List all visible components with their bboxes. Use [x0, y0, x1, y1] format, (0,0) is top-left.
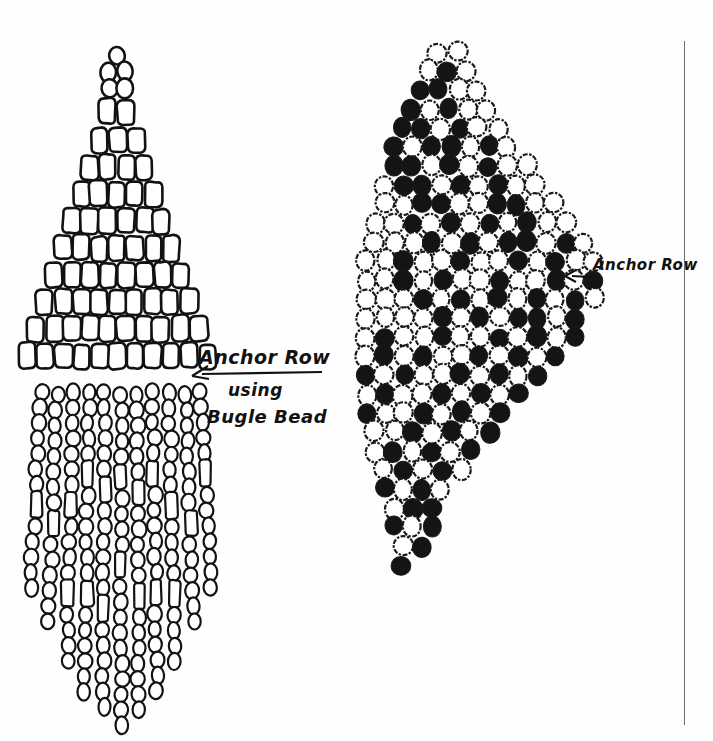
light-bead: [394, 326, 414, 346]
dark-bead: [546, 346, 564, 366]
light-bead: [470, 366, 490, 386]
arrow-shaft: [572, 276, 590, 277]
dark-bead: [509, 307, 529, 328]
dark-bead: [487, 192, 508, 215]
light-bead: [585, 287, 605, 308]
light-bead: [376, 307, 394, 327]
dark-bead: [528, 365, 548, 386]
light-bead: [374, 364, 394, 384]
dark-bead: [441, 135, 461, 157]
light-bead: [497, 155, 517, 176]
light-bead: [433, 346, 453, 366]
light-bead: [395, 346, 414, 367]
dark-bead: [393, 460, 414, 481]
light-bead: [466, 81, 486, 101]
light-bead: [458, 155, 479, 178]
dark-bead: [391, 556, 411, 575]
dark-bead: [413, 289, 433, 309]
light-bead: [376, 268, 394, 288]
light-bead: [468, 192, 488, 213]
light-bead: [526, 193, 545, 213]
light-bead: [393, 535, 414, 555]
light-bead: [528, 251, 548, 274]
light-bead: [489, 306, 511, 327]
light-bead: [449, 78, 469, 100]
light-bead: [459, 212, 480, 235]
dark-bead: [480, 214, 499, 234]
dark-bead: [412, 479, 432, 502]
light-bead: [395, 195, 414, 216]
light-bead: [507, 327, 527, 347]
dark-bead: [393, 117, 411, 137]
light-bead: [421, 100, 439, 120]
dark-bead: [410, 80, 430, 100]
bugle-bead-label: Bugle Bead: [207, 406, 327, 427]
dark-bead: [461, 439, 479, 459]
light-bead: [412, 383, 432, 404]
light-bead: [461, 136, 479, 157]
light-bead: [466, 117, 487, 137]
worksheet-page: Anchor Row using Bugle Bead Anchor Row: [0, 0, 713, 741]
dark-bead: [432, 461, 452, 481]
light-bead: [451, 344, 472, 365]
dark-bead: [452, 400, 471, 422]
dark-bead: [396, 365, 415, 385]
dark-bead: [433, 269, 453, 290]
dark-bead: [487, 287, 508, 308]
light-bead: [508, 288, 526, 310]
light-bead: [419, 59, 438, 81]
light-bead: [470, 269, 490, 290]
light-bead: [459, 420, 478, 441]
dark-bead: [439, 154, 460, 176]
dark-bead: [439, 97, 458, 119]
light-bead: [414, 271, 433, 292]
light-bead: [471, 402, 491, 423]
using-label: using: [228, 380, 283, 400]
light-bead: [354, 345, 375, 368]
light-bead: [432, 175, 452, 195]
light-bead: [422, 154, 442, 176]
dark-bead: [375, 478, 395, 498]
dark-bead: [384, 515, 403, 536]
dark-bead: [526, 325, 547, 347]
dark-bead: [432, 306, 453, 328]
light-bead: [499, 213, 517, 232]
dark-bead: [508, 383, 529, 403]
light-bead: [393, 478, 412, 500]
anchor-row-label-right: Anchor Row: [593, 256, 698, 274]
dark-bead: [480, 421, 501, 444]
round-bead-grid: [354, 41, 604, 575]
dark-bead: [383, 136, 405, 158]
light-bead: [527, 347, 546, 367]
light-bead: [402, 135, 423, 157]
dark-bead: [441, 213, 460, 233]
light-bead: [517, 154, 537, 176]
dark-bead: [509, 251, 528, 271]
light-bead: [395, 307, 414, 327]
anchor-row-label-left: Anchor Row: [199, 346, 330, 368]
light-bead: [440, 442, 460, 462]
dark-bead: [384, 155, 404, 177]
dark-bead: [489, 363, 510, 385]
dark-bead: [355, 365, 375, 386]
light-bead: [448, 41, 468, 61]
light-bead: [413, 251, 434, 274]
light-bead: [415, 326, 435, 348]
light-bead: [356, 308, 376, 329]
dark-bead: [423, 516, 441, 537]
light-bead: [375, 193, 395, 213]
light-bead: [507, 175, 525, 196]
light-bead: [543, 192, 565, 214]
light-bead: [383, 213, 404, 234]
dark-bead: [374, 344, 395, 366]
dark-bead: [471, 383, 490, 403]
dark-bead: [488, 174, 509, 196]
light-bead: [404, 440, 422, 461]
light-bead: [450, 193, 469, 214]
light-bead: [357, 290, 376, 310]
light-bead: [525, 174, 545, 194]
light-bead: [374, 459, 392, 478]
dark-bead: [499, 232, 517, 253]
page-margin-rule: [684, 41, 685, 725]
light-bead: [478, 232, 499, 252]
